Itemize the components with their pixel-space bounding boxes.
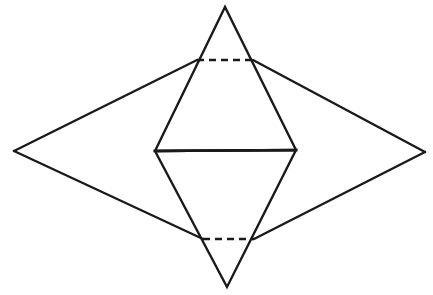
lower-triangle (155, 150, 296, 287)
upper-triangle (155, 7, 296, 151)
geometry-figure (0, 0, 433, 295)
outer-kite-upper-left-edge (14, 60, 197, 151)
geometry-canvas (0, 0, 433, 295)
inner-horizontal-chord (155, 150, 296, 151)
outer-kite-lower-left-edge (14, 151, 203, 239)
outer-kite-lower-right-edge (254, 152, 425, 239)
outer-kite-upper-right-edge (253, 60, 425, 152)
